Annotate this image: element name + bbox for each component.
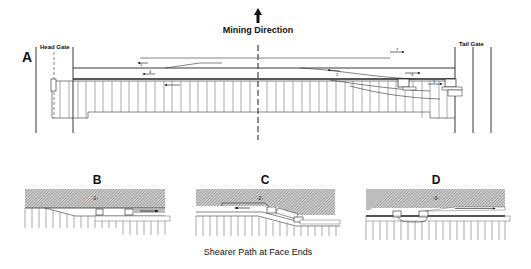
svg-text:-3-: -3- <box>433 195 439 201</box>
panel-d: D -3- <box>366 173 510 240</box>
shearer-path-diagram: Mining Direction A Head Gate Tail Gate <box>0 0 531 269</box>
svg-text:4: 4 <box>149 69 152 74</box>
mining-direction-label: Mining Direction <box>223 25 294 35</box>
up-arrow-icon <box>254 8 262 23</box>
figure-caption: Shearer Path at Face Ends <box>204 247 313 257</box>
panel-a-label: A <box>22 49 32 65</box>
panel-c: C -2- <box>196 173 340 236</box>
svg-text:-1-: -1- <box>92 195 98 201</box>
panel-b-label: B <box>93 173 102 187</box>
panel-b: B -1- <box>25 173 170 235</box>
panel-a: A Head Gate Tail Gate <box>22 41 491 140</box>
tail-gate-label: Tail Gate <box>459 41 485 47</box>
svg-text:1: 1 <box>433 79 436 84</box>
mining-direction: Mining Direction <box>223 8 294 35</box>
svg-text:2: 2 <box>336 72 339 77</box>
svg-text:7: 7 <box>396 47 399 52</box>
panel-c-label: C <box>261 173 270 187</box>
panel-d-label: D <box>432 173 441 187</box>
head-gate-label: Head Gate <box>40 44 70 50</box>
svg-text:-2-: -2- <box>257 195 263 201</box>
